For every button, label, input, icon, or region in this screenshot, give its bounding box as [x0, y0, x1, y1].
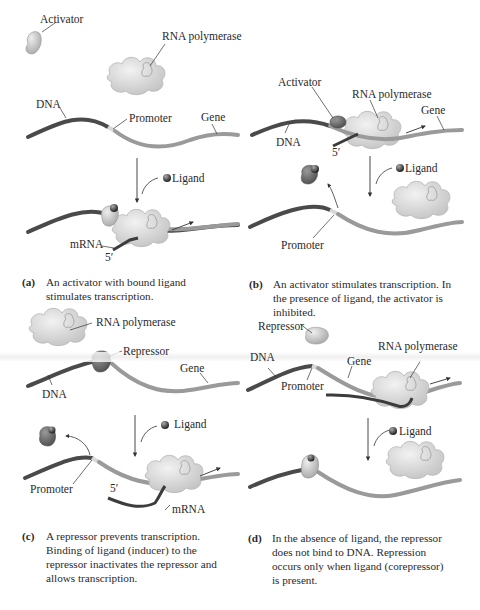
label-five-prime: 5′	[110, 482, 118, 495]
caption-line: repressor inactivates the repressor and	[46, 557, 217, 571]
label-gene: Gene	[421, 104, 445, 117]
caption-tag: (c)	[22, 529, 34, 543]
panel-c-graphics	[25, 308, 238, 510]
label-dna: DNA	[36, 98, 61, 111]
caption-line: does not bind to DNA. Repression	[272, 545, 426, 559]
panel-a-graphics	[26, 23, 238, 250]
caption-a: (a) An activator with bound ligand stimu…	[22, 275, 237, 305]
label-activator: Activator	[40, 13, 83, 26]
caption-tag: (a)	[22, 275, 35, 289]
label-repressor: Repressor	[258, 320, 304, 333]
label-mrna: mRNA	[70, 238, 103, 251]
caption-line: inhibited.	[273, 305, 316, 319]
label-promoter: Promoter	[281, 380, 324, 393]
caption-line: stimulates transcription.	[46, 289, 154, 303]
label-rna-polymerase: RNA polymerase	[378, 340, 458, 353]
label-promoter: Promoter	[129, 112, 172, 125]
caption-tag: (d)	[248, 531, 262, 545]
caption-line: occurs only when ligand (corepressor)	[272, 559, 443, 573]
label-rna-polymerase: RNA polymerase	[162, 30, 242, 43]
label-ligand: Ligand	[174, 418, 207, 431]
caption-b: (b) An activator stimulates transcriptio…	[249, 277, 479, 321]
label-five-prime: 5′	[332, 146, 340, 159]
label-repressor: Repressor	[123, 345, 169, 358]
activator-shape	[26, 32, 41, 54]
label-ligand: Ligand	[172, 172, 205, 185]
label-ligand: Ligand	[405, 162, 438, 175]
page-fold-shading	[0, 352, 480, 362]
label-ligand: Ligand	[399, 425, 432, 438]
caption-line: An activator stimulates transcription. I…	[273, 277, 451, 291]
caption-line: Binding of ligand (inducer) to the	[46, 543, 197, 557]
caption-d: (d) In the absence of ligand, the repres…	[248, 531, 478, 589]
label-gene: Gene	[347, 355, 371, 368]
label-rna-polymerase: RNA polymerase	[96, 316, 176, 329]
label-promoter: Promoter	[30, 483, 73, 496]
label-mrna: mRNA	[172, 503, 205, 516]
caption-line: allows transcription.	[46, 571, 137, 585]
caption-line: is present.	[272, 573, 317, 587]
label-rna-polymerase: RNA polymerase	[352, 88, 432, 101]
label-promoter: Promoter	[281, 239, 324, 252]
label-activator: Activator	[278, 76, 321, 89]
label-gene: Gene	[180, 362, 204, 375]
caption-line: the presence of ligand, the activator is	[273, 291, 443, 305]
caption-c: (c) A repressor prevents transcription. …	[22, 529, 240, 587]
label-gene: Gene	[201, 111, 225, 124]
label-five-prime: 5′	[105, 251, 113, 264]
caption-line: In the absence of ligand, the repressor	[272, 531, 442, 545]
caption-line: A repressor prevents transcription.	[46, 529, 200, 543]
label-dna: DNA	[42, 388, 67, 401]
label-dna: DNA	[250, 351, 275, 364]
label-dna: DNA	[276, 136, 301, 149]
caption-line: An activator with bound ligand	[46, 275, 186, 289]
caption-tag: (b)	[249, 277, 263, 291]
